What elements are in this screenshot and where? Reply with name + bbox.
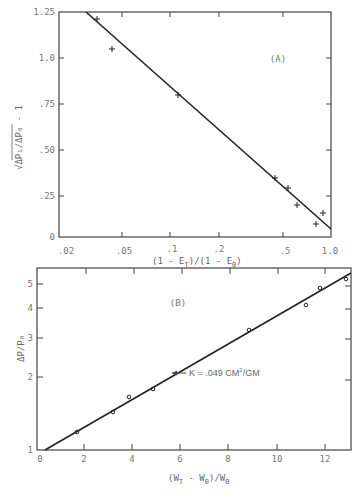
chart-b-panel-label: (B)	[170, 298, 186, 308]
x-tick-label: 1.0	[322, 246, 338, 256]
chart-b: 5 4 3 2 1 0 2 4 6 8 10 12 (WT - W0)/W0 Δ…	[16, 268, 351, 486]
chart-a-y-axis-label: √ΔP₁/ΔP₀ - 1	[14, 105, 24, 170]
y-tick-label: .25	[39, 191, 55, 201]
figure: 1.25 1.0 .75 .50 .25 0 .02 .05 .1 .2 .5 …	[0, 0, 362, 496]
chart-b-fit-line	[45, 273, 351, 450]
chart-a-x-tick-labels: .02 .05 .1 .2 .5 1.0	[58, 244, 338, 256]
x-tick-label: .02	[58, 246, 74, 256]
y-tick-label: 4	[28, 303, 33, 313]
data-point	[313, 221, 319, 227]
x-tick-label: .1	[167, 244, 178, 254]
chart-b-points	[75, 277, 348, 434]
chart-b-x-tick-labels: 0 2 4 6 8 10 12	[37, 454, 330, 464]
chart-b-y-tick-labels: 5 4 3 2 1	[28, 279, 33, 455]
y-tick-label: 5	[28, 279, 33, 289]
data-point	[318, 286, 322, 290]
y-tick-label: .50	[39, 145, 55, 155]
x-tick-label: 6	[177, 454, 182, 464]
x-tick-label: .05	[116, 246, 132, 256]
data-point	[294, 202, 300, 208]
x-tick-label: .2	[214, 244, 225, 254]
chart-a-panel-label: (A)	[270, 54, 286, 64]
chart-b-x-axis-label: (WT - W0)/W0	[168, 473, 229, 486]
data-point	[127, 395, 131, 399]
x-tick-label: .5	[280, 246, 291, 256]
chart-b-ticks	[37, 268, 351, 450]
chart-b-frame	[37, 268, 351, 450]
chart-a-frame	[59, 12, 331, 237]
y-tick-label: 1.0	[39, 53, 55, 63]
data-point	[109, 46, 115, 52]
x-tick-label: 8	[225, 454, 230, 464]
chart-a: 1.25 1.0 .75 .50 .25 0 .02 .05 .1 .2 .5 …	[12, 7, 338, 269]
y-tick-label: 2	[28, 372, 33, 382]
chart-a-y-tick-labels: 1.25 1.0 .75 .50 .25 0	[33, 7, 55, 242]
x-tick-label: 12	[320, 454, 331, 464]
chart-b-y-axis-label: ΔP/P₀	[16, 335, 26, 362]
k-value-annotation: K = .049 CM2/GM	[189, 367, 260, 378]
data-point	[304, 303, 308, 307]
chart-a-fit-line	[86, 12, 331, 229]
y-tick-label: 0	[50, 232, 55, 242]
y-tick-label: 3	[28, 333, 33, 343]
data-point	[272, 175, 278, 181]
chart-a-y-ticks	[59, 12, 331, 237]
y-tick-label: 1	[28, 445, 33, 455]
data-point	[175, 92, 181, 98]
x-tick-label: 0	[37, 454, 42, 464]
y-tick-label: 1.25	[33, 7, 55, 17]
data-point	[320, 210, 326, 216]
data-point	[344, 277, 348, 281]
x-tick-label: 4	[129, 454, 134, 464]
x-tick-label: 2	[81, 454, 86, 464]
x-tick-label: 10	[272, 454, 283, 464]
data-point	[94, 16, 100, 22]
chart-a-x-axis-label: (1 - ET)/(1 - E0)	[152, 256, 242, 269]
y-tick-label: .75	[39, 99, 55, 109]
